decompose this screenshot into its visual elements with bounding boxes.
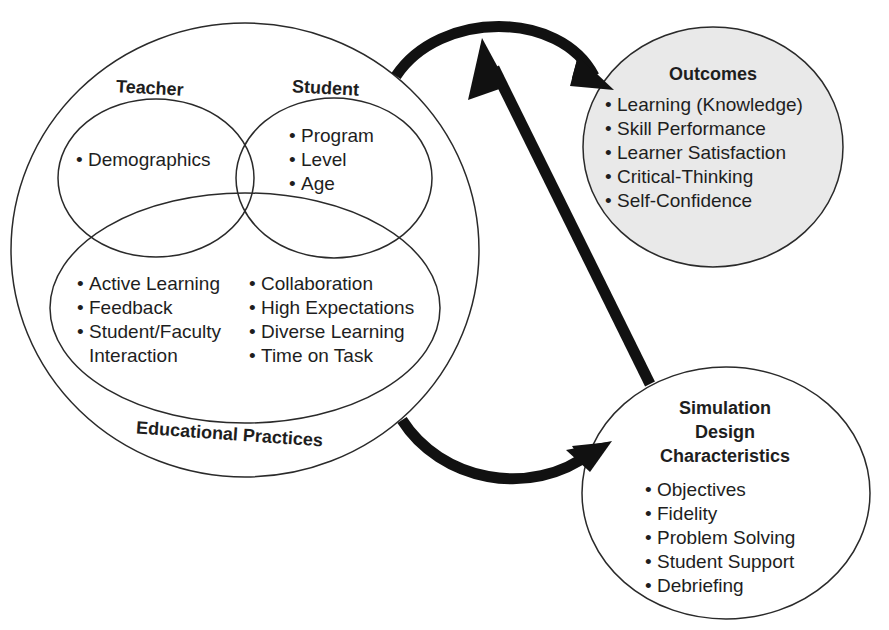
bullet-icon: • xyxy=(77,272,89,296)
list-item: •Debriefing xyxy=(645,574,795,598)
bullet-icon: • xyxy=(289,172,301,196)
bullet-icon: • xyxy=(289,124,301,148)
bullet-icon: • xyxy=(605,93,617,117)
list-item: •Collaboration xyxy=(249,272,414,296)
list-item: •Program xyxy=(289,124,374,148)
list-item: •Learning (Knowledge) xyxy=(605,93,803,117)
list-item: •Active Learning xyxy=(77,272,221,296)
list-item: •Critical-Thinking xyxy=(605,165,803,189)
outcomes-list: •Learning (Knowledge) •Skill Performance… xyxy=(605,93,803,213)
list-item: •Learner Satisfaction xyxy=(605,141,803,165)
list-item: •Feedback xyxy=(77,296,221,320)
bullet-icon: • xyxy=(645,502,657,526)
bullet-icon: • xyxy=(645,574,657,598)
bullet-icon: • xyxy=(76,148,88,172)
bullet-icon: • xyxy=(605,117,617,141)
teacher-title: Teacher xyxy=(115,74,184,102)
bullet-icon: • xyxy=(249,344,261,368)
bullet-icon: • xyxy=(605,189,617,213)
bullet-icon: • xyxy=(289,148,301,172)
simulation-design-list: •Objectives •Fidelity •Problem Solving •… xyxy=(645,478,795,598)
bullet-icon: • xyxy=(645,550,657,574)
simulation-design-title: Simulation Design Characteristics xyxy=(640,396,810,468)
practices-left-list: •Active Learning •Feedback •Student/Facu… xyxy=(77,272,221,368)
bullet-icon: • xyxy=(77,296,89,320)
list-item: •Diverse Learning xyxy=(249,320,414,344)
list-item: •Self-Confidence xyxy=(605,189,803,213)
bullet-icon: • xyxy=(249,272,261,296)
main-outer-circle xyxy=(11,23,479,477)
student-title: Student xyxy=(291,74,359,101)
list-item: •Student/Faculty xyxy=(77,320,221,344)
list-item: •High Expectations xyxy=(249,296,414,320)
bullet-icon: • xyxy=(249,296,261,320)
list-item: •Student Support xyxy=(645,550,795,574)
practices-right-list: •Collaboration •High Expectations •Diver… xyxy=(249,272,414,368)
bullet-icon: • xyxy=(249,320,261,344)
list-item: •Objectives xyxy=(645,478,795,502)
list-item: •Fidelity xyxy=(645,502,795,526)
list-item: •Age xyxy=(289,172,374,196)
list-item: •Demographics xyxy=(76,148,211,172)
list-item: Interaction xyxy=(77,344,221,368)
bullet-icon: • xyxy=(605,141,617,165)
title-line: Characteristics xyxy=(640,444,810,468)
student-list: •Program •Level •Age xyxy=(289,124,374,196)
bullet-icon: • xyxy=(645,526,657,550)
bullet-icon: • xyxy=(77,320,89,344)
title-line: Simulation xyxy=(640,396,810,420)
title-line: Design xyxy=(640,420,810,444)
list-item: •Level xyxy=(289,148,374,172)
list-item: •Time on Task xyxy=(249,344,414,368)
arrow-main-to-simulation xyxy=(402,420,592,479)
list-item: •Problem Solving xyxy=(645,526,795,550)
teacher-list: •Demographics xyxy=(76,148,211,172)
list-item: •Skill Performance xyxy=(605,117,803,141)
outcomes-title: Outcomes xyxy=(643,62,783,86)
bullet-icon: • xyxy=(605,165,617,189)
bullet-icon: • xyxy=(645,478,657,502)
